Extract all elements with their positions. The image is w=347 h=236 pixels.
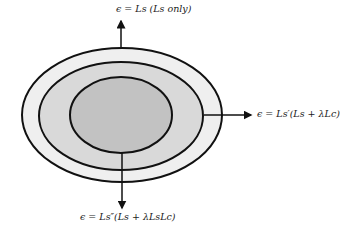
bottom-label: ϵ = Ls″(Ls + λLsLc): [80, 211, 175, 222]
top-label: ϵ = Ls (Ls only): [116, 3, 191, 14]
inner-ellipse: [70, 77, 172, 153]
right-label: ϵ = Ls′(Ls + λLc): [257, 108, 340, 119]
